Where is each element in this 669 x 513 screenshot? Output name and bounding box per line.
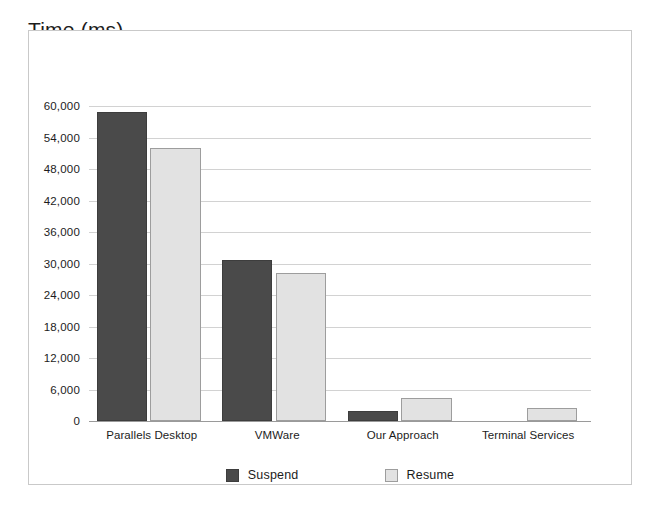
bar-resume [150, 148, 200, 421]
category-group: Our Approach [340, 106, 466, 421]
y-axis-tick-label: 12,000 [44, 352, 80, 364]
y-axis-tick-label: 36,000 [44, 226, 80, 238]
legend-label: Suspend [248, 468, 299, 482]
y-axis-tick-label: 24,000 [44, 289, 80, 301]
x-axis-category-label: Our Approach [340, 429, 466, 441]
bar-suspend [348, 411, 398, 422]
y-axis-tick-label: 0 [73, 415, 80, 427]
bar-suspend [222, 260, 272, 421]
category-group: Parallels Desktop [89, 106, 215, 421]
y-axis-tick-label: 60,000 [44, 100, 80, 112]
legend-entry-resume: Resume [385, 468, 455, 482]
y-axis-tick-label: 6,000 [50, 384, 80, 396]
y-axis-tick-label: 18,000 [44, 321, 80, 333]
chart-legend: SuspendResume [89, 468, 591, 482]
legend-swatch-icon [226, 469, 239, 482]
chart-figure-frame: 60,00054,00048,00042,00036,00030,00024,0… [28, 30, 632, 485]
x-axis-category-label: VMWare [215, 429, 341, 441]
bar-resume [527, 408, 577, 421]
gridline [89, 421, 591, 422]
bar-resume [401, 398, 451, 421]
bar-resume [276, 273, 326, 421]
bars-layer: Parallels DesktopVMWareOur ApproachTermi… [89, 106, 591, 421]
legend-entry-suspend: Suspend [226, 468, 299, 482]
plot-area: 60,00054,00048,00042,00036,00030,00024,0… [89, 106, 591, 421]
x-axis-category-label: Parallels Desktop [89, 429, 215, 441]
y-axis-tick-label: 48,000 [44, 163, 80, 175]
bar-suspend [97, 112, 147, 421]
y-axis-tick-label: 54,000 [44, 132, 80, 144]
category-group: VMWare [215, 106, 341, 421]
x-axis-category-label: Terminal Services [466, 429, 592, 441]
y-axis-tick-label: 42,000 [44, 195, 80, 207]
y-axis-tick-label: 30,000 [44, 258, 80, 270]
legend-swatch-icon [385, 469, 398, 482]
category-group: Terminal Services [466, 106, 592, 421]
legend-label: Resume [407, 468, 455, 482]
